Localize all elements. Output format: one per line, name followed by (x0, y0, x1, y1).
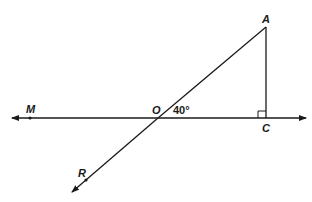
label-r: R (78, 167, 86, 179)
geometry-diagram: M O 40° A C R (0, 0, 312, 202)
label-o: O (152, 104, 161, 116)
label-c: C (262, 122, 271, 134)
right-angle-marker (258, 111, 266, 118)
label-m: M (26, 103, 36, 115)
angle-label: 40° (173, 104, 190, 116)
point-m-dot (28, 116, 31, 119)
label-a: A (261, 13, 270, 25)
